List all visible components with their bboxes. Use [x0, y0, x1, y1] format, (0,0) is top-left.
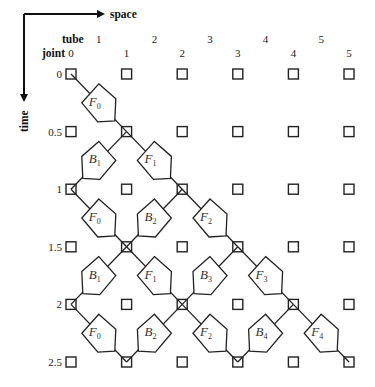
tube-header: tube: [62, 33, 84, 45]
joint-square: [344, 127, 354, 137]
joint-square: [177, 127, 187, 137]
joint-square: [233, 69, 243, 79]
tube-label: 3: [207, 33, 213, 45]
tube-label: 5: [318, 33, 324, 45]
joint-label: 3: [235, 47, 241, 59]
pipeline-diagram: space time tube joint 12345 012345 00.51…: [0, 0, 375, 387]
time-label: 0: [57, 68, 63, 80]
time-label: 2.5: [48, 356, 62, 368]
joint-square: [177, 357, 187, 367]
joint-square: [344, 69, 354, 79]
joint-square: [288, 357, 298, 367]
joint-label: 1: [124, 47, 130, 59]
joint-square: [233, 184, 243, 194]
tube-labels: 12345: [96, 33, 324, 45]
joint-square: [233, 299, 243, 309]
joint-labels: 012345: [68, 47, 352, 59]
joint-label: 0: [68, 47, 74, 59]
tube-label: 2: [152, 33, 158, 45]
joint-square: [288, 242, 298, 252]
time-label: 1.5: [48, 241, 62, 253]
time-labels: 00.511.522.5: [48, 68, 62, 368]
joint-label: 2: [179, 47, 185, 59]
time-axis-label: time: [18, 110, 30, 132]
joint-square: [122, 184, 132, 194]
joint-label: 5: [346, 47, 352, 59]
tube-label: 1: [96, 33, 102, 45]
joint-square: [344, 184, 354, 194]
joint-square: [288, 127, 298, 137]
joint-square: [288, 69, 298, 79]
joint-square: [177, 242, 187, 252]
tube-label: 4: [263, 33, 269, 45]
space-axis-label: space: [110, 8, 137, 21]
joint-square: [66, 357, 76, 367]
joint-square: [344, 299, 354, 309]
joint-square: [66, 242, 76, 252]
pentagons: F0B1F1F0B2F2B1F1B3F3F0B2F2B4F4: [82, 84, 338, 352]
time-label: 1: [57, 183, 63, 195]
joint-square: [233, 127, 243, 137]
joint-header: joint: [41, 47, 65, 60]
joint-square: [122, 69, 132, 79]
joint-square: [177, 69, 187, 79]
joint-label: 4: [291, 47, 297, 59]
joint-square: [344, 242, 354, 252]
joint-square: [122, 299, 132, 309]
joint-square: [66, 127, 76, 137]
time-label: 0.5: [48, 126, 62, 138]
joint-square: [288, 184, 298, 194]
time-label: 2: [57, 298, 63, 310]
